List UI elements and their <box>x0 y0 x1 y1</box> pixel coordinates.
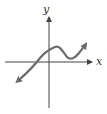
graph: y x <box>0 0 107 114</box>
y-axis-label: y <box>42 3 50 16</box>
x-axis-label: x <box>96 55 103 68</box>
